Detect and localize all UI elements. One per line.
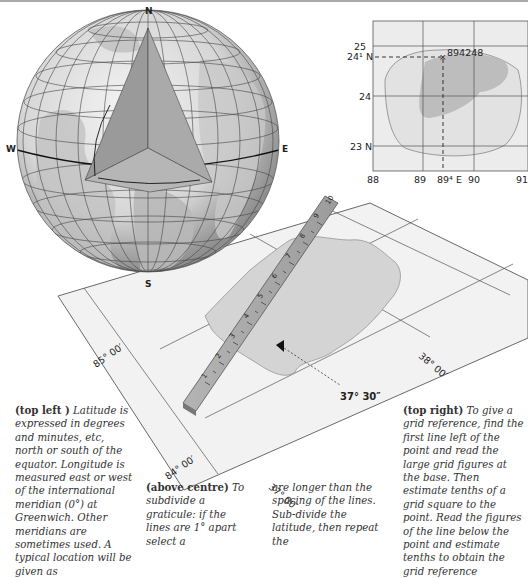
caption-top-left: (top left ) Latitude is expressed in deg… bbox=[15, 404, 133, 578]
grid-x-89: 89 bbox=[414, 174, 426, 185]
caption-centre-continued-text: are longer than the spac­ing of the line… bbox=[272, 482, 378, 547]
grid-x-91: 91 bbox=[516, 174, 528, 185]
caption-centre-continued: are longer than the spac­ing of the line… bbox=[272, 481, 384, 548]
grid-y-24-1: 24¹ N bbox=[347, 51, 373, 62]
point-marker-icon: × bbox=[439, 52, 447, 62]
grid-y-24: 24 bbox=[359, 91, 371, 102]
caption-top-left-text: Latitude is expressed in degrees and min… bbox=[15, 405, 132, 577]
grid-y-23: 23 N bbox=[350, 141, 372, 152]
caption-top-right-heading: (top right) bbox=[403, 404, 463, 416]
caption-top-left-heading: (top left ) bbox=[15, 404, 70, 416]
grid-point-label: 894248 bbox=[447, 47, 483, 58]
grid-x-90: 90 bbox=[468, 174, 480, 185]
caption-top-right: (top right) To give a grid reference, fi… bbox=[403, 404, 525, 578]
caption-top-right-text: To give a grid reference, find the first… bbox=[403, 405, 524, 577]
caption-above-centre: (above centre) To sub­divide a graticule… bbox=[146, 481, 252, 548]
grid-x-88: 88 bbox=[367, 174, 379, 185]
grid-x-89-4: 89⁴ E bbox=[437, 174, 462, 185]
caption-above-centre-heading: (above centre) bbox=[146, 481, 229, 493]
